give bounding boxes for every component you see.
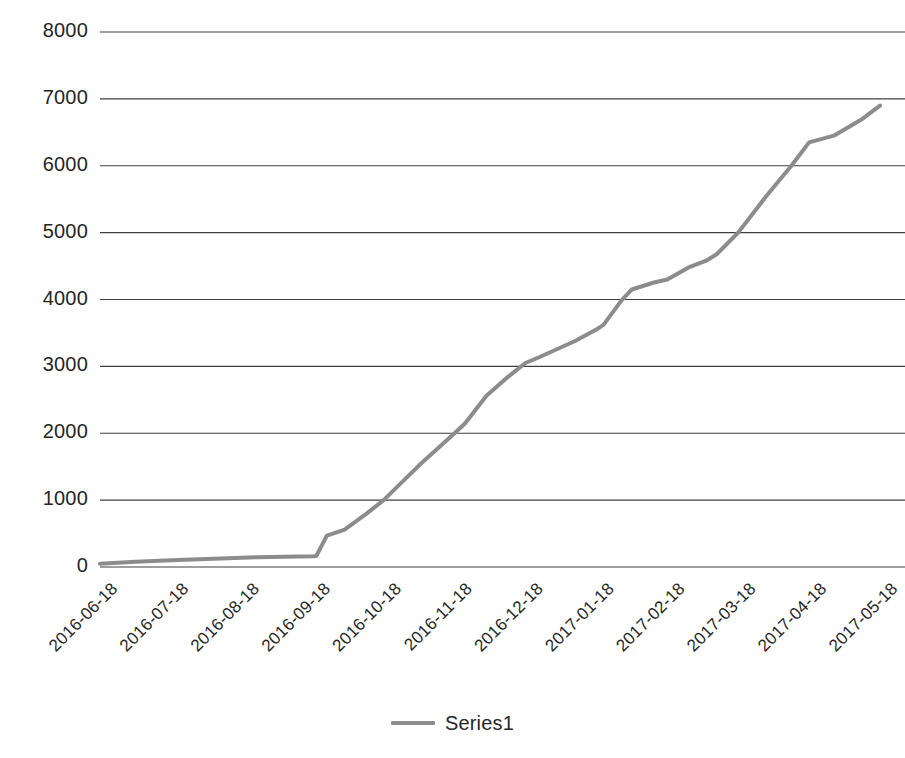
legend-label-series1: Series1 bbox=[445, 712, 514, 735]
gridlines-group bbox=[100, 32, 905, 567]
y-tick-label-3000: 3000 bbox=[43, 353, 88, 376]
series-line-series1 bbox=[100, 106, 880, 564]
line-chart: 010002000300040005000600070008000 2016-0… bbox=[0, 0, 905, 758]
chart-legend: Series1 bbox=[0, 705, 905, 741]
y-tick-label-5000: 5000 bbox=[43, 220, 88, 243]
y-tick-label-7000: 7000 bbox=[43, 86, 88, 109]
y-tick-label-8000: 8000 bbox=[43, 19, 88, 42]
y-tick-label-1000: 1000 bbox=[43, 487, 88, 510]
y-tick-label-0: 0 bbox=[77, 554, 88, 577]
y-tick-label-6000: 6000 bbox=[43, 153, 88, 176]
y-tick-label-4000: 4000 bbox=[43, 287, 88, 310]
legend-line-swatch-series1 bbox=[391, 721, 435, 725]
y-tick-label-2000: 2000 bbox=[43, 420, 88, 443]
series-lines-group bbox=[100, 106, 880, 564]
